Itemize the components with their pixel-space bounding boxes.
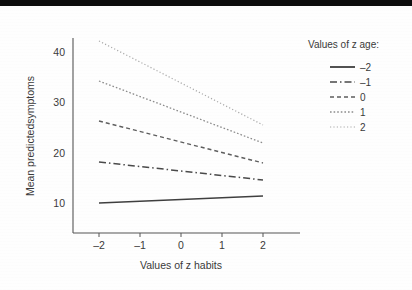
- series-line-zage-zero: [99, 121, 263, 163]
- x-tick-label-zero: 0: [178, 239, 184, 251]
- y-axis-title: Mean predictedsymptoms: [24, 76, 36, 196]
- legend-item-zage-minus2[interactable]: –2: [330, 62, 372, 73]
- legend-item-zage-one[interactable]: 1: [330, 107, 366, 118]
- x-tick-label-minus1: –1: [134, 239, 146, 251]
- x-tick-label-one: 1: [219, 239, 225, 251]
- legend-label-zage-one: 1: [360, 107, 366, 118]
- x-tick-label-two: 2: [260, 239, 266, 251]
- y-tick-label-10: 10: [53, 197, 65, 209]
- figure-container: 40 30 20 10 –2 –1 0 1 2 Values of z habi…: [0, 0, 412, 290]
- x-axis-title: Values of z habits: [140, 259, 222, 271]
- legend-label-zage-minus2: –2: [360, 62, 372, 73]
- axis-spines: [73, 38, 300, 233]
- series-line-zage-minus2: [99, 196, 263, 203]
- x-tickmarks: [99, 233, 263, 237]
- legend-item-zage-minus1[interactable]: –1: [330, 77, 372, 88]
- x-tick-label-minus2: –2: [93, 239, 105, 251]
- legend-title: Values of z age:: [308, 39, 379, 50]
- y-tick-label-30: 30: [53, 96, 65, 108]
- legend-label-zage-zero: 0: [360, 92, 366, 103]
- legend: Values of z age: –2 –1 0 1: [308, 39, 379, 133]
- line-chart: 40 30 20 10 –2 –1 0 1 2 Values of z habi…: [0, 0, 412, 290]
- series-lines: [99, 41, 263, 203]
- legend-label-zage-two: 2: [360, 122, 366, 133]
- y-tick-label-40: 40: [53, 46, 65, 58]
- legend-item-zage-two[interactable]: 2: [330, 122, 366, 133]
- legend-item-zage-zero[interactable]: 0: [330, 92, 366, 103]
- series-line-zage-minus1: [99, 162, 263, 180]
- y-tick-label-20: 20: [53, 147, 65, 159]
- legend-label-zage-minus1: –1: [360, 77, 372, 88]
